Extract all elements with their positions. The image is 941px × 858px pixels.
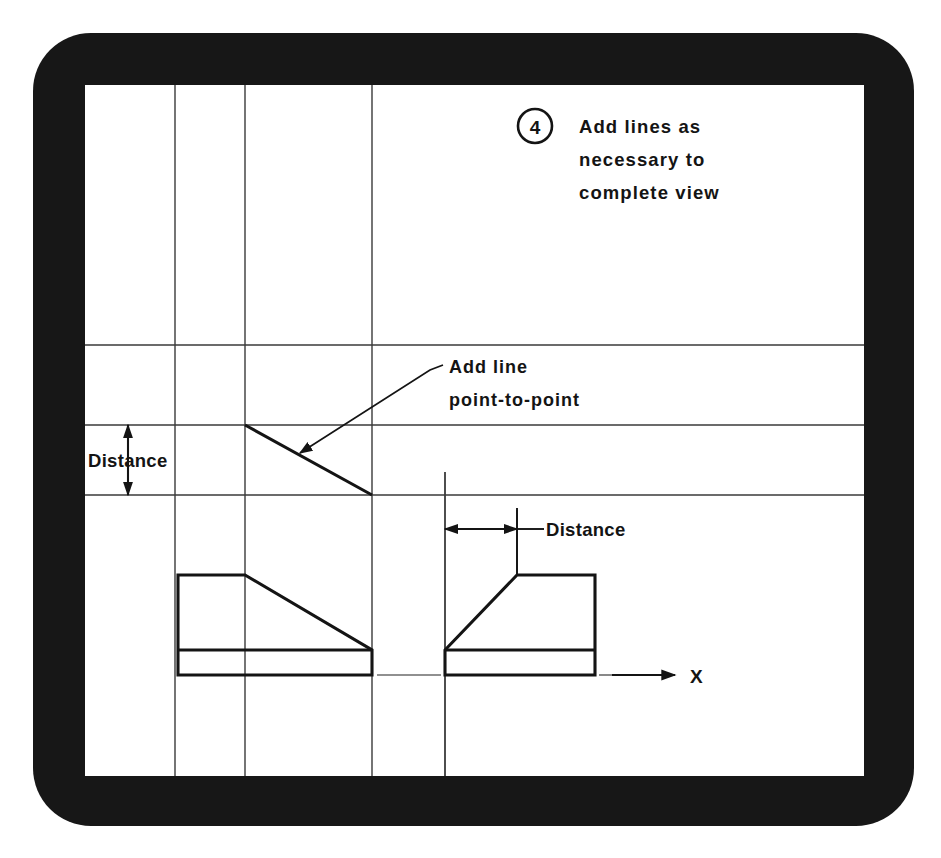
left-profile-outline[interactable] [178, 575, 372, 675]
right-profile-outline[interactable] [445, 575, 595, 675]
left-profile-shape[interactable] [178, 575, 372, 675]
step-callout: 4 Add lines as necessary to complete vie… [518, 109, 720, 203]
callout-line-1: Add lines as [579, 116, 701, 137]
screenshot-root: 4 Add lines as necessary to complete vie… [0, 0, 941, 858]
horizontal-distance-dimension: Distance [445, 508, 626, 575]
x-axis-label: X [690, 666, 703, 687]
step-number-label: 4 [530, 117, 541, 138]
right-profile-shape[interactable] [445, 575, 595, 675]
add-line-label-1: Add line [449, 357, 528, 377]
add-line-annotation: Add line point-to-point [300, 357, 580, 453]
construction-grid [85, 85, 864, 776]
drawing-canvas[interactable]: 4 Add lines as necessary to complete vie… [85, 85, 864, 776]
vertical-distance-label: Distance [88, 450, 168, 471]
callout-line-3: complete view [579, 182, 720, 203]
x-axis: X [612, 666, 703, 687]
horizontal-distance-label: Distance [546, 519, 626, 540]
callout-line-2: necessary to [579, 149, 705, 170]
cad-drawing-screen[interactable]: 4 Add lines as necessary to complete vie… [85, 85, 864, 776]
add-line-label-2: point-to-point [449, 390, 580, 410]
vertical-distance-dimension: Distance [88, 425, 168, 495]
construction-diagonal-line [245, 425, 372, 495]
